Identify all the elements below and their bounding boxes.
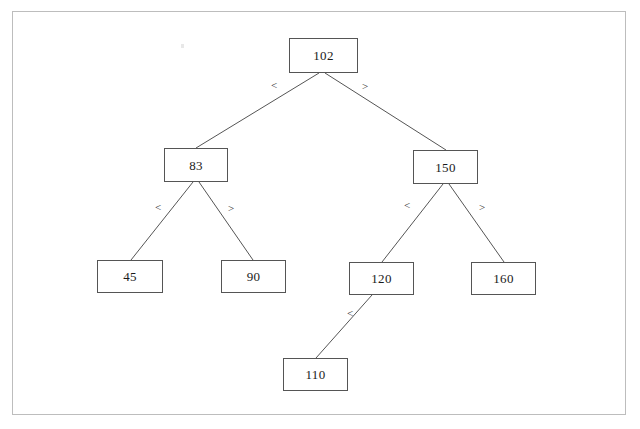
tree-node-label: 120: [371, 272, 391, 285]
edge-label-n83-n45: <: [155, 202, 161, 213]
edge-label-n83-n90: >: [228, 203, 234, 214]
tree-node-120[interactable]: 120: [349, 262, 414, 295]
tree-node-160[interactable]: 160: [471, 262, 536, 295]
tree-node-label: 45: [123, 270, 137, 283]
tree-node-150[interactable]: 150: [413, 150, 478, 184]
tree-edge-n102-n83: [196, 73, 319, 148]
tree-edge-n150-n120: [382, 184, 443, 262]
tree-node-label: 160: [493, 272, 513, 285]
edge-label-n150-n160: >: [479, 202, 485, 213]
tree-edge-n83-n45: [131, 182, 193, 260]
tree-edge-n120-n110: [316, 295, 372, 358]
tree-node-45[interactable]: 45: [97, 260, 163, 293]
diagram-page: 102831504590120160110 <><><><: [0, 0, 640, 429]
tree-node-110[interactable]: 110: [283, 358, 348, 391]
tree-node-90[interactable]: 90: [221, 260, 286, 293]
tree-edge-n102-n150: [325, 73, 446, 150]
tree-node-102[interactable]: 102: [289, 38, 358, 73]
tree-node-label: 102: [313, 49, 333, 62]
edge-label-n150-n120: <: [404, 200, 410, 211]
edge-label-n120-n110: <: [347, 308, 353, 319]
edge-label-n102-n83: <: [271, 80, 277, 91]
tree-node-label: 90: [247, 270, 261, 283]
edge-label-n102-n150: >: [362, 81, 368, 92]
tree-node-label: 150: [435, 161, 455, 174]
tree-node-83[interactable]: 83: [164, 148, 228, 182]
tree-node-label: 110: [306, 368, 326, 381]
tree-node-label: 83: [189, 159, 203, 172]
tree-edge-n83-n90: [199, 182, 253, 260]
tree-edge-n150-n160: [449, 184, 504, 262]
